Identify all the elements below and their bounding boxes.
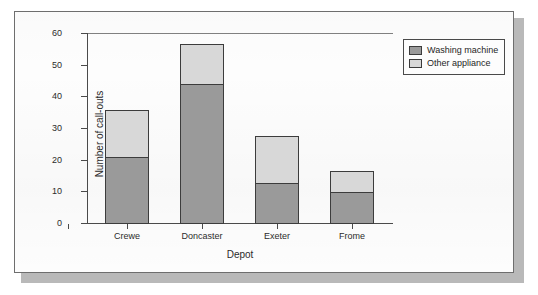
y-axis-tick-label-0: 0 [28, 219, 62, 228]
legend-item-washing-machine[interactable]: Washing machine [409, 44, 498, 57]
y-axis-tick-label-50: 50 [28, 61, 62, 70]
x-axis-tick [68, 224, 69, 229]
bar-stack-frome[interactable] [330, 171, 374, 223]
legend-swatch-icon [409, 59, 422, 68]
y-axis-tick [81, 65, 87, 66]
scanned-page: 60 50 40 30 20 10 0 [14, 11, 514, 273]
y-axis-tick [81, 160, 87, 161]
bar-segment-washing-machine[interactable] [330, 192, 374, 224]
chart-plot-area: 60 50 40 30 20 10 0 [68, 33, 393, 234]
y-axis-tick [81, 191, 87, 192]
y-axis-line [87, 33, 88, 224]
y-axis-tick-label-20: 20 [28, 156, 62, 165]
y-axis-tick-label-40: 40 [28, 92, 62, 101]
x-axis-tick [277, 224, 278, 229]
x-axis-tick [202, 224, 203, 229]
bar-segment-washing-machine[interactable] [180, 84, 224, 224]
bar-stack-doncaster[interactable] [180, 44, 224, 223]
y-axis-tick-label-60: 60 [28, 29, 62, 38]
x-axis-label-crewe: Crewe [89, 232, 165, 241]
y-axis-tick [81, 33, 87, 34]
legend-label: Other appliance [427, 59, 491, 68]
legend-swatch-icon [409, 46, 422, 55]
x-axis-tick [127, 224, 128, 229]
y-axis-title: Number of call-outs [94, 90, 105, 177]
bar-segment-washing-machine[interactable] [105, 157, 149, 224]
x-axis-label-frome: Frome [314, 232, 390, 241]
bar-segment-other-appliance[interactable] [180, 44, 224, 85]
bar-segment-washing-machine[interactable] [255, 183, 299, 224]
bar-stack-crewe[interactable] [105, 110, 149, 223]
y-axis-tick [81, 128, 87, 129]
legend-label: Washing machine [427, 46, 498, 55]
x-axis-label-exeter: Exeter [239, 232, 315, 241]
bar-segment-other-appliance[interactable] [255, 136, 299, 184]
x-axis-label-doncaster: Doncaster [164, 232, 240, 241]
legend-item-other-appliance[interactable]: Other appliance [409, 57, 498, 70]
bar-stack-exeter[interactable] [255, 136, 299, 223]
plot-top-rule [87, 33, 393, 34]
y-axis-tick [81, 223, 87, 224]
y-axis-tick-label-10: 10 [28, 187, 62, 196]
bar-segment-other-appliance[interactable] [105, 110, 149, 158]
x-axis-tick [352, 224, 353, 229]
chart-legend: Washing machine Other appliance [403, 39, 505, 75]
y-axis-tick [81, 96, 87, 97]
x-axis-title: Depot [87, 249, 393, 260]
y-axis-tick-label-30: 30 [28, 124, 62, 133]
bar-segment-other-appliance[interactable] [330, 171, 374, 193]
